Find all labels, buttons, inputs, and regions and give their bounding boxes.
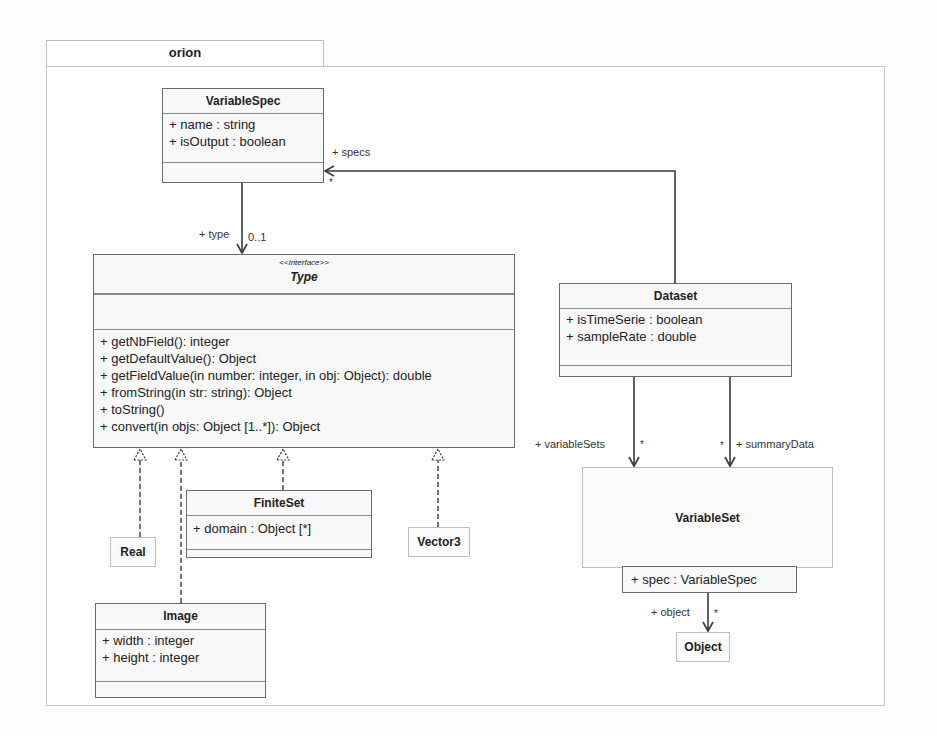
operations-section xyxy=(96,681,265,706)
attribute: + domain : Object [*] xyxy=(193,518,365,540)
attribute: + isTimeSerie : boolean xyxy=(566,311,785,328)
operation: + getNbField(): integer xyxy=(100,333,508,350)
class-dataset[interactable]: Dataset + isTimeSerie : boolean + sample… xyxy=(559,283,792,377)
class-finite-set[interactable]: FiniteSet + domain : Object [*] xyxy=(186,490,372,558)
attribute: + isOutput : boolean xyxy=(169,133,317,150)
role-variable-sets: + variableSets xyxy=(535,438,605,450)
multiplicity-specs: * xyxy=(329,177,333,188)
class-name: Image xyxy=(96,604,265,629)
class-variable-set[interactable]: VariableSet xyxy=(582,467,833,568)
operation: + getDefaultValue(): Object xyxy=(100,350,508,367)
multiplicity-type: 0..1 xyxy=(248,231,266,243)
attribute: + width : integer xyxy=(102,632,259,649)
interface-type[interactable]: <<Interface>> Type + getNbField(): integ… xyxy=(93,254,515,448)
operations-section xyxy=(187,549,371,566)
operation: + toString() xyxy=(100,401,508,418)
class-image[interactable]: Image + width : integer + height : integ… xyxy=(95,603,266,698)
class-name: VariableSet xyxy=(675,511,740,525)
class-name: Dataset xyxy=(560,284,791,308)
class-real[interactable]: Real xyxy=(110,537,156,567)
class-name: Type xyxy=(94,268,514,286)
class-variable-spec[interactable]: VariableSpec + name : string + isOutput … xyxy=(162,88,324,183)
qualifier: + spec : VariableSpec xyxy=(631,572,757,587)
class-name: VariableSpec xyxy=(163,89,323,113)
operation: + convert(in objs: Object [1..*]): Objec… xyxy=(100,418,508,435)
attribute: + sampleRate : double xyxy=(566,328,785,345)
role-type: + type xyxy=(199,228,229,240)
qualifier-spec[interactable]: + spec : VariableSpec xyxy=(622,566,797,593)
role-specs: + specs xyxy=(332,146,370,158)
operation: + getFieldValue(in number: integer, in o… xyxy=(100,367,508,384)
role-summary-data: + summaryData xyxy=(736,438,814,450)
operation: + fromString(in str: string): Object xyxy=(100,384,508,401)
attributes-section xyxy=(94,293,514,329)
attribute: + height : integer xyxy=(102,649,259,666)
class-name: Real xyxy=(120,545,145,559)
role-object: + object xyxy=(651,606,690,618)
multiplicity-object: * xyxy=(714,608,718,619)
class-object[interactable]: Object xyxy=(676,632,730,662)
multiplicity-variable-sets: * xyxy=(640,439,644,450)
class-name: Vector3 xyxy=(417,535,460,549)
class-name: Object xyxy=(684,640,721,654)
class-vector3[interactable]: Vector3 xyxy=(408,527,470,557)
operations-section xyxy=(163,162,323,191)
class-name: FiniteSet xyxy=(187,491,371,515)
operations-section xyxy=(560,365,791,386)
stereotype: <<Interface>> xyxy=(94,255,514,268)
attribute: + name : string xyxy=(169,116,317,133)
multiplicity-summary-data: * xyxy=(720,440,724,451)
